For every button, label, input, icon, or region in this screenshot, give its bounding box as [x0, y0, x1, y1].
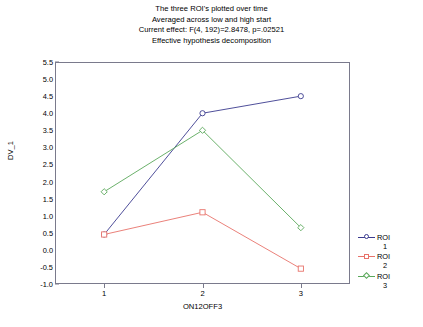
y-tick-label: 3.0: [43, 143, 53, 152]
data-point-marker: [101, 189, 107, 195]
legend-label: ROI: [375, 272, 390, 281]
legend-item-3[interactable]: ROI3: [358, 271, 422, 290]
y-tick-label: 2.0: [43, 177, 53, 186]
chart-title-line-3: Current effect: F(4, 192)=2.8478, p=.025…: [0, 25, 423, 36]
y-tick-label: 0.5: [43, 228, 53, 237]
y-tick-label: 4.5: [43, 92, 53, 101]
y-axis-title: DV_1: [6, 141, 15, 160]
y-tick-label: 0.0: [43, 245, 53, 254]
x-tick-label: 1: [102, 289, 106, 298]
y-tick-label: 3.5: [43, 126, 53, 135]
y-tick-label: -0.5: [40, 262, 53, 271]
chart-legend: ROI1ROI2ROI3: [358, 232, 422, 291]
y-tick-label: 5.5: [43, 58, 53, 67]
y-tick-label: 1.5: [43, 194, 53, 203]
y-tick-label: 5.0: [43, 75, 53, 84]
x-tick-mark: [301, 284, 302, 288]
y-axis-tick-labels: 5.55.04.54.03.53.02.52.01.51.00.50.0-0.5…: [25, 62, 53, 284]
y-tick-label: 4.0: [43, 109, 53, 118]
legend-marker-square-icon: [358, 253, 375, 261]
legend-label: ROI: [375, 252, 390, 261]
legend-item-2[interactable]: ROI2: [358, 252, 422, 271]
legend-marker-circle-icon: [358, 233, 375, 241]
legend-label: ROI: [375, 233, 390, 242]
chart-title-line-2: Averaged across low and high start: [0, 15, 423, 26]
series-layer: [55, 62, 350, 284]
data-point-marker: [298, 266, 303, 271]
x-tick-label: 2: [200, 289, 204, 298]
chart-title-line-1: The three ROI's plotted over time: [0, 4, 423, 15]
x-axis-title: ON12OFF3: [55, 302, 350, 311]
chart-title-line-4: Effective hypothesis decomposition: [0, 36, 423, 47]
series-2: [102, 210, 304, 272]
legend-label-index: 1: [358, 242, 422, 251]
series-1: [102, 94, 304, 238]
chart-title-block: The three ROI's plotted over time Averag…: [0, 4, 423, 46]
chart-figure: The three ROI's plotted over time Averag…: [0, 0, 423, 327]
series-line: [104, 212, 301, 268]
legend-label-index: 2: [358, 261, 422, 270]
x-tick-mark: [203, 284, 204, 288]
y-tick-label: 1.0: [43, 211, 53, 220]
y-tick-label: 2.5: [43, 160, 53, 169]
data-point-marker: [102, 232, 107, 237]
data-point-marker: [200, 111, 205, 116]
data-point-marker: [298, 94, 303, 99]
data-point-marker: [200, 210, 205, 215]
legend-label-index: 3: [358, 281, 422, 290]
y-tick-label: -1.0: [40, 280, 53, 289]
x-tick-label: 3: [299, 289, 303, 298]
legend-item-1[interactable]: ROI1: [358, 232, 422, 251]
x-tick-mark: [104, 284, 105, 288]
legend-marker-diamond-icon: [358, 272, 375, 280]
